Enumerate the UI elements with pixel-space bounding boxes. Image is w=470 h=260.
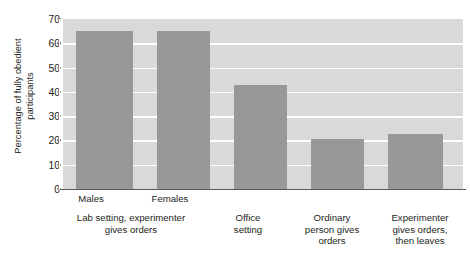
y-axis-title: Percentage of fully obedient participant…: [12, 10, 36, 182]
x-tick-label-females: Females: [135, 193, 205, 204]
y-axis-tick-labels: 70 60 50 40 30 20 10 0: [36, 0, 60, 196]
y-axis-line: [59, 19, 60, 190]
bar-males: [76, 31, 133, 189]
bar-office-setting: [234, 85, 287, 189]
group-label-lab-setting: Lab setting, experimenter gives orders: [56, 212, 206, 235]
bar-ordinary-person: [311, 139, 364, 189]
group-label-ordinary-person: Ordinary person gives orders: [292, 212, 372, 247]
bar-chart-figure: Percentage of fully obedient participant…: [0, 0, 470, 260]
x-tick-label-males: Males: [56, 193, 126, 204]
bar-experimenter-leaves: [388, 134, 443, 189]
plot-area: [63, 19, 463, 189]
x-axis-line: [60, 189, 466, 190]
group-label-experimenter-leaves: Experimenter gives orders, then leaves: [376, 212, 464, 247]
group-label-office-setting: Office setting: [212, 212, 284, 235]
bar-females: [157, 31, 210, 189]
